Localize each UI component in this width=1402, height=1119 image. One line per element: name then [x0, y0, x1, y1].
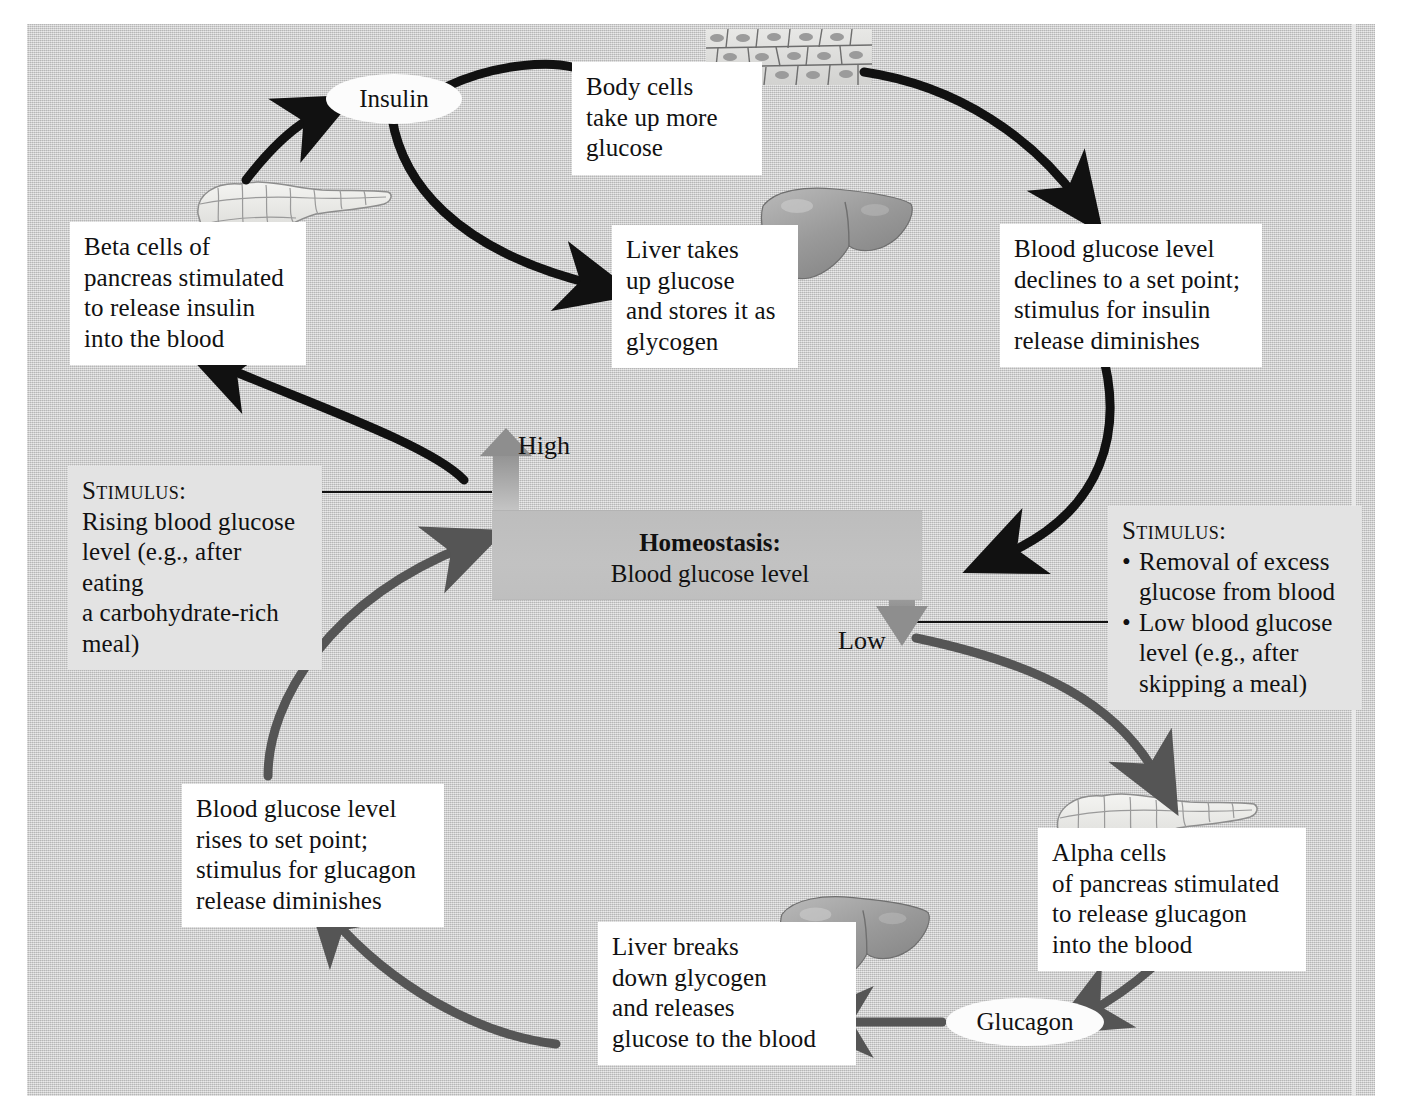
glucagon-label-oval: Glucagon: [946, 998, 1104, 1046]
stimulus-right-box: Stimulus: • Removal of excess glucose fr…: [1108, 506, 1362, 710]
stimulus-left-line-4: meal): [82, 629, 309, 660]
liver-breakdown-line-3: and releases: [612, 993, 843, 1024]
alpha-cells-line-1: Alpha cells: [1052, 838, 1293, 869]
liver-breakdown-box: Liver breaks down glycogen and releases …: [598, 922, 856, 1065]
body-cells-line-1: Body cells: [586, 72, 749, 103]
low-label: Low: [838, 626, 886, 656]
stimulus-right-b2-line-1: Low blood glucose: [1139, 608, 1332, 639]
stimulus-right-b1-line-2: glucose from blood: [1122, 577, 1349, 608]
glucose-rises-line-4: release diminishes: [196, 886, 431, 917]
beta-cells-line-2: pancreas stimulated: [84, 263, 293, 294]
glucose-declines-line-3: stimulus for insulin: [1014, 295, 1249, 326]
stimulus-right-bullet-1: • Removal of excess: [1122, 547, 1349, 578]
beta-cells-line-4: into the blood: [84, 324, 293, 355]
stimulus-right-bullet-2: • Low blood glucose: [1122, 608, 1349, 639]
stimulus-right-b2-line-2: level (e.g., after: [1122, 638, 1349, 669]
stimulus-left-line-3: a carbohydrate-rich: [82, 598, 309, 629]
glucose-declines-box: Blood glucose level declines to a set po…: [1000, 224, 1262, 367]
insulin-label-oval: Insulin: [326, 74, 462, 124]
stimulus-left-line-2: level (e.g., after eating: [82, 537, 309, 598]
liver-breakdown-line-2: down glycogen: [612, 963, 843, 994]
homeostasis-variable: Blood glucose level: [560, 558, 860, 589]
liver-uptake-line-3: and stores it as: [626, 296, 785, 327]
liver-uptake-line-4: glycogen: [626, 327, 785, 358]
stimulus-left-box: Stimulus: Rising blood glucose level (e.…: [68, 466, 322, 670]
beta-cells-line-1: Beta cells of: [84, 232, 293, 263]
stimulus-left-heading: Stimulus:: [82, 476, 309, 507]
glucose-declines-line-4: release diminishes: [1014, 326, 1249, 357]
alpha-cells-line-2: of pancreas stimulated: [1052, 869, 1293, 900]
liver-uptake-box: Liver takes up glucose and stores it as …: [612, 225, 798, 368]
high-label: High: [518, 431, 570, 461]
glucose-rises-line-2: rises to set point;: [196, 825, 431, 856]
glucagon-label: Glucagon: [976, 1008, 1073, 1036]
liver-uptake-line-2: up glucose: [626, 266, 785, 297]
stimulus-right-b1-line-1: Removal of excess: [1139, 547, 1330, 578]
insulin-label: Insulin: [359, 85, 428, 113]
stimulus-right-heading: Stimulus:: [1122, 516, 1349, 547]
stimulus-right-b2-line-3: skipping a meal): [1122, 669, 1349, 700]
alpha-cells-line-3: to release glucagon: [1052, 899, 1293, 930]
body-cells-box: Body cells take up more glucose: [572, 62, 762, 175]
liver-uptake-line-1: Liver takes: [626, 235, 785, 266]
bullet-glyph: •: [1122, 547, 1139, 578]
homeostasis-title: Homeostasis:: [560, 527, 860, 558]
stimulus-left-line-1: Rising blood glucose: [82, 507, 309, 538]
beta-cells-line-3: to release insulin: [84, 293, 293, 324]
body-cells-line-2: take up more: [586, 103, 749, 134]
liver-breakdown-line-4: glucose to the blood: [612, 1024, 843, 1055]
beta-cells-box: Beta cells of pancreas stimulated to rel…: [70, 222, 306, 365]
glucose-declines-line-1: Blood glucose level: [1014, 234, 1249, 265]
body-cells-line-3: glucose: [586, 133, 749, 164]
figure-canvas: Homeostasis: Blood glucose level High Lo…: [0, 0, 1402, 1119]
alpha-cells-line-4: into the blood: [1052, 930, 1293, 961]
homeostasis-label-group: Homeostasis: Blood glucose level: [560, 527, 860, 590]
alpha-cells-box: Alpha cells of pancreas stimulated to re…: [1038, 828, 1306, 971]
glucose-rises-line-1: Blood glucose level: [196, 794, 431, 825]
bullet-glyph: •: [1122, 608, 1139, 639]
glucose-declines-line-2: declines to a set point;: [1014, 265, 1249, 296]
glucose-rises-line-3: stimulus for glucagon: [196, 855, 431, 886]
liver-breakdown-line-1: Liver breaks: [612, 932, 843, 963]
glucose-rises-box: Blood glucose level rises to set point; …: [182, 784, 444, 927]
